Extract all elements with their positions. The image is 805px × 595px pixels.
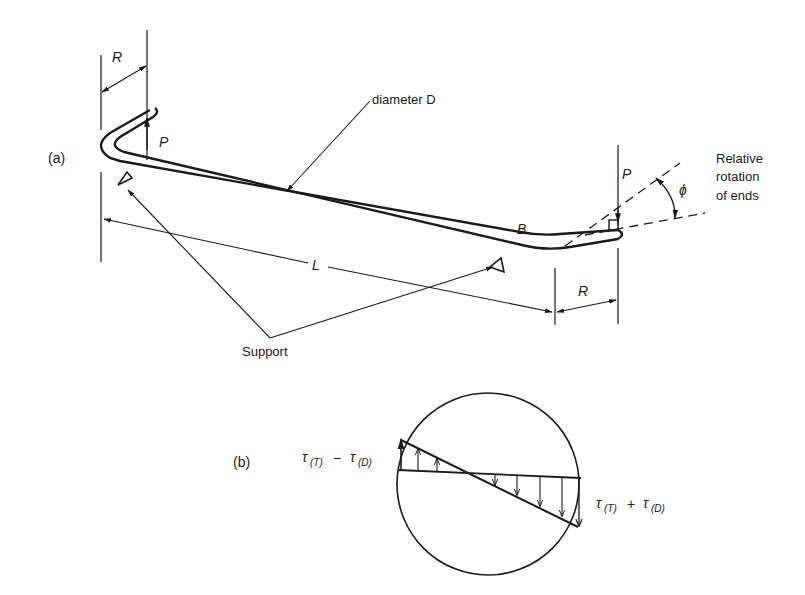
subscript-d: (D) <box>651 503 665 514</box>
subscript-d: (D) <box>358 457 372 468</box>
radius-right-label: R <box>578 283 588 299</box>
load-left-label: P <box>159 134 169 150</box>
load-block-right <box>609 220 618 230</box>
part-a-diagram: (a) R P diameter D B L P ϕ Relative rota… <box>48 30 763 359</box>
diameter-leader <box>287 101 370 191</box>
diameter-label: diameter D <box>372 92 436 107</box>
tau-symbol-d: τ <box>643 495 649 511</box>
rotation-label-line3: of ends <box>716 188 759 203</box>
support-right-icon <box>490 258 504 272</box>
tau-symbol: τ <box>302 449 308 465</box>
radius-left-dimension <box>102 66 146 92</box>
subscript-t: (T) <box>310 457 323 468</box>
length-dimension-left <box>104 219 308 263</box>
length-label: L <box>312 257 320 273</box>
rotation-label-line2: rotation <box>716 169 759 184</box>
part-b-tag: (b) <box>233 454 250 470</box>
rod-outline-lower <box>115 108 618 249</box>
stress-label-minus: τ (T) − (D) τ (D) <box>302 449 372 468</box>
angle-phi-label: ϕ <box>679 182 687 198</box>
tau-symbol: τ <box>596 495 602 511</box>
point-b-label: B <box>517 221 526 237</box>
support-left-icon <box>118 172 132 185</box>
angle-phi-arc <box>656 178 675 218</box>
part-b-diagram: (b) τ (T) − (D) τ (D) τ (T) + τ (D) <box>233 393 665 575</box>
rod-outline-upper <box>101 110 618 235</box>
minus-operator: − <box>333 450 341 466</box>
support-leader-left <box>128 190 270 338</box>
tau-symbol-d: τ <box>350 449 356 465</box>
length-dimension-right <box>328 267 552 312</box>
rod-axis-dashed <box>585 213 705 235</box>
cross-section-circle <box>397 393 579 575</box>
rod-end-right <box>618 230 622 239</box>
subscript-t: (T) <box>604 503 617 514</box>
figure-canvas: (a) R P diameter D B L P ϕ Relative rota… <box>0 0 805 595</box>
part-a-tag: (a) <box>48 150 65 166</box>
support-label: Support <box>242 344 288 359</box>
stress-label-plus: τ (T) + τ (D) <box>596 495 665 514</box>
rotation-label-line1: Relative <box>716 151 763 166</box>
radius-right-dimension <box>557 300 616 312</box>
load-right-label: P <box>622 166 632 182</box>
reference-axis <box>398 470 581 478</box>
radius-left-label: R <box>112 49 122 65</box>
stress-distribution-line <box>401 440 578 527</box>
plus-operator: + <box>627 496 635 512</box>
